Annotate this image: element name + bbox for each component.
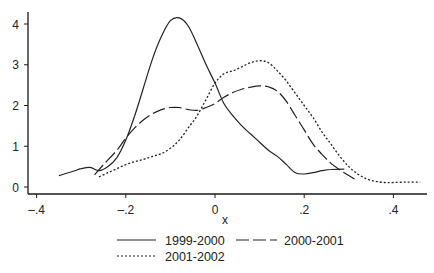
x-tick-label: –.4 (28, 203, 45, 217)
series-line-1999-2000 (59, 18, 344, 176)
legend-label: 2000-2001 (284, 234, 344, 248)
series-line-2000-2001 (95, 86, 358, 181)
y-tick-label: 0 (12, 181, 19, 195)
y-tick-label: 4 (12, 18, 19, 32)
x-axis-label: x (222, 213, 228, 227)
series-line-2001-2002 (99, 61, 420, 183)
x-tick-label: 0 (212, 203, 219, 217)
plot-area (59, 18, 420, 183)
x-tick-label: .2 (299, 203, 309, 217)
x-tick-label: .4 (388, 203, 398, 217)
chart-svg: 01234–.4–.20.2.4x 1999-20002000-20012001… (0, 0, 434, 273)
legend: 1999-20002000-20012001-2002 (117, 234, 344, 264)
x-tick-label: –.2 (117, 203, 134, 217)
density-chart: 01234–.4–.20.2.4x 1999-20002000-20012001… (0, 0, 434, 273)
y-tick-label: 2 (12, 99, 19, 113)
axes: 01234–.4–.20.2.4x (12, 12, 427, 227)
legend-label: 1999-2000 (165, 234, 225, 248)
legend-label: 2001-2002 (165, 250, 225, 264)
y-tick-label: 3 (12, 58, 19, 72)
y-tick-label: 1 (12, 140, 19, 154)
